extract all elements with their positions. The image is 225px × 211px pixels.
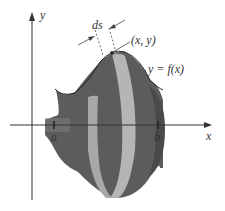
ds-label: ds	[92, 19, 103, 31]
y-axis-label: y	[40, 9, 45, 21]
x-axis-arrow	[204, 122, 212, 128]
curve-label: y = f(x)	[148, 63, 184, 75]
x-axis-label: x	[206, 130, 211, 142]
diagram-graphic	[0, 0, 225, 211]
ds-guide-right	[109, 28, 116, 52]
point-marker	[110, 51, 114, 55]
surface-of-revolution-diagram: y x ds (x, y) y = f(x) a b	[0, 0, 225, 211]
point-leader	[113, 42, 130, 52]
point-label: (x, y)	[131, 34, 156, 46]
b-label: b	[154, 131, 160, 143]
ds-guide-left	[95, 30, 103, 55]
a-label: a	[51, 131, 57, 143]
y-axis-arrow	[29, 12, 35, 21]
